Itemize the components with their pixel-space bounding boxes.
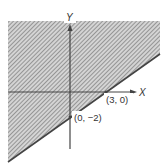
point-y-intercept [69,116,72,119]
x-intercept-label: (3, 0) [106,94,128,105]
x-axis-label: X [138,87,146,98]
half-plane-diagram: Y X (3, 0) (0, −2) [0,0,167,168]
y-intercept-label: (0, −2) [74,112,102,123]
diagram-canvas: Y X (3, 0) (0, −2) [0,0,167,168]
